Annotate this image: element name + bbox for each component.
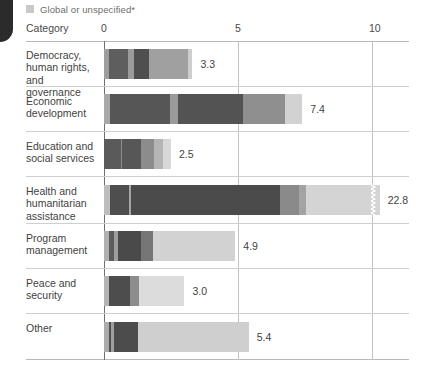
bar-segment[interactable] <box>139 276 185 306</box>
bar-wrapper: 4.9 <box>104 224 409 268</box>
legend-swatch-icon <box>26 5 34 13</box>
bar-segment[interactable] <box>154 139 163 169</box>
stacked-bar[interactable] <box>104 49 192 79</box>
bar-wrapper: 2.5 <box>104 132 409 176</box>
bar-segment[interactable] <box>122 139 141 169</box>
bar-segment[interactable] <box>141 139 154 169</box>
bar-segment[interactable] <box>178 94 244 124</box>
bar-segment[interactable] <box>285 94 302 124</box>
stacked-bar[interactable] <box>104 139 171 169</box>
chart-row: Peace and security3.0 <box>26 269 409 314</box>
bar-value-label: 5.4 <box>257 331 272 343</box>
bar-value-label: 3.0 <box>192 285 207 297</box>
chart-row: Health and humanitarian assistance22.8 <box>26 177 409 224</box>
row-category-label: Other <box>26 314 100 334</box>
chart-row: Economic development7.4 <box>26 87 409 132</box>
stacked-bar[interactable] <box>104 185 371 215</box>
bar-segment[interactable] <box>104 139 121 169</box>
bar-value-label: 7.4 <box>310 103 325 115</box>
stacked-bar[interactable] <box>104 276 184 306</box>
x-tick-label-10: 10 <box>369 22 381 34</box>
bar-segment[interactable] <box>130 276 139 306</box>
chart-rows: Democracy, human rights, and governance3… <box>26 41 409 360</box>
stacked-bar[interactable] <box>104 94 302 124</box>
bar-segment[interactable] <box>306 185 370 215</box>
bar-segment[interactable] <box>109 276 130 306</box>
legend-label: Global or unspecified* <box>40 4 135 15</box>
row-category-label: Economic development <box>26 87 100 120</box>
row-category-label: Health and humanitarian assistance <box>26 177 100 222</box>
bar-segment[interactable] <box>299 185 307 215</box>
bar-value-label: 3.3 <box>200 58 215 70</box>
bar-segment[interactable] <box>114 322 138 352</box>
bar-segment[interactable] <box>110 185 129 215</box>
row-category-label: Program management <box>26 224 100 257</box>
bar-segment[interactable] <box>170 94 178 124</box>
bar-wrapper: 22.8 <box>104 177 409 223</box>
x-tick-label-0: 0 <box>101 22 107 34</box>
bar-value-label: 2.5 <box>179 148 194 160</box>
bar-wrapper: 7.4 <box>104 87 409 131</box>
axis-break-marker <box>371 185 380 215</box>
x-tick-label-5: 5 <box>235 22 241 34</box>
category-column-header: Category <box>26 22 69 34</box>
bar-segment[interactable] <box>163 139 171 169</box>
bar-segment[interactable] <box>188 49 193 79</box>
bar-segment[interactable] <box>280 185 299 215</box>
bar-wrapper: 5.4 <box>104 314 409 360</box>
row-category-label: Peace and security <box>26 269 100 302</box>
stacked-bar[interactable] <box>104 231 235 261</box>
bar-wrapper: 3.3 <box>104 41 409 86</box>
bar-segment[interactable] <box>109 49 128 79</box>
axis-header: Category 0 5 10 <box>0 22 444 42</box>
bar-segment[interactable] <box>134 49 149 79</box>
chart-row: Democracy, human rights, and governance3… <box>26 41 409 87</box>
bar-value-label: 4.9 <box>243 240 258 252</box>
bar-segment[interactable] <box>138 322 248 352</box>
bar-value-label: 22.8 <box>388 194 408 206</box>
bar-segment[interactable] <box>131 185 280 215</box>
stacked-bar[interactable] <box>104 322 249 352</box>
bar-segment[interactable] <box>153 231 236 261</box>
bar-segment[interactable] <box>149 49 188 79</box>
bar-segment[interactable] <box>110 94 170 124</box>
bar-segment[interactable] <box>243 94 285 124</box>
chart-row: Other5.4 <box>26 314 409 360</box>
bar-segment[interactable] <box>141 231 153 261</box>
bar-wrapper: 3.0 <box>104 269 409 313</box>
row-category-label: Education and social services <box>26 132 100 165</box>
chart-row: Program management4.9 <box>26 224 409 269</box>
chart-plot-area: Democracy, human rights, and governance3… <box>26 41 409 360</box>
chart-row: Education and social services2.5 <box>26 132 409 177</box>
chart-legend: Global or unspecified* <box>26 2 135 16</box>
bar-segment[interactable] <box>118 231 141 261</box>
